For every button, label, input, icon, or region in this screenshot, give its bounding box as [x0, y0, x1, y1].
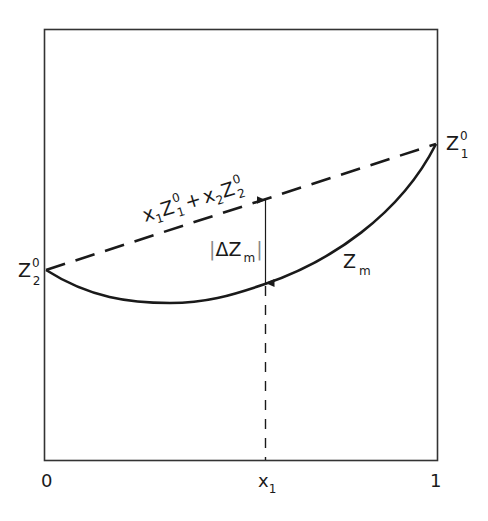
zm-curve-label: Zm	[343, 250, 371, 278]
delta-zm-label: |ΔZm|	[209, 238, 263, 265]
mixture-curve	[46, 144, 436, 303]
ideal-line-label: x1Z01+x2Z02	[139, 171, 247, 229]
x-tick-1: 1	[430, 470, 441, 491]
x-tick-x1: x1	[258, 470, 276, 496]
svg-text:x1Z01+x2Z02: x1Z01+x2Z02	[139, 171, 247, 229]
z2-pure-label: Z02	[18, 256, 40, 288]
z1-pure-label: Z01	[446, 129, 468, 161]
mixing-diagram: Z02 Z01 x1Z01+x2Z02 |ΔZm| Zm 0 x1 1	[0, 0, 488, 521]
x-tick-0: 0	[41, 470, 52, 491]
